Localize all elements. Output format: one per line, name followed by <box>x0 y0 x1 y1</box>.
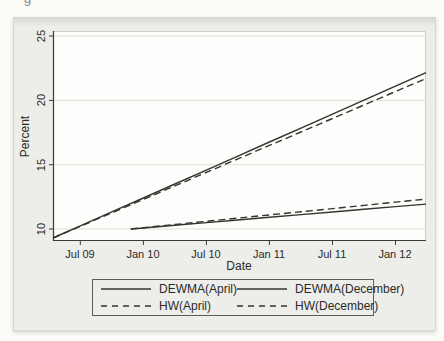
legend-label: DEWMA(April) <box>159 282 237 296</box>
legend-label: HW(December) <box>295 299 378 313</box>
legend-label: HW(April) <box>159 299 211 313</box>
chart-canvas <box>53 31 426 241</box>
figure-card: 25 20 15 10 Percent Jul 09 Jan 10 Jul 10… <box>13 17 436 331</box>
solid-line-sample-icon <box>101 287 151 291</box>
legend-entry-hw-december: HW(December) <box>237 299 404 313</box>
legend-entry-dewma-april: DEWMA(April) <box>101 282 237 296</box>
y-tick-label-15: 15 <box>35 150 47 180</box>
chart-page: g 25 20 15 10 Percent Jul 09 Jan 10 Jul … <box>0 0 444 341</box>
legend-column-april: DEWMA(April) HW(April) <box>101 282 237 313</box>
cropped-caption-fragment: g <box>24 0 31 6</box>
legend-entry-hw-april: HW(April) <box>101 299 237 313</box>
x-axis-title: Date <box>209 259 269 273</box>
solid-line-sample-icon <box>237 287 287 291</box>
legend-entry-dewma-december: DEWMA(December) <box>237 282 404 296</box>
plot-area <box>53 31 426 241</box>
chart-legend: DEWMA(April) HW(April) DEWMA(December) H… <box>92 279 374 316</box>
y-tick-label-20: 20 <box>35 85 47 115</box>
x-tick-label-jul11: Jul 11 <box>312 248 352 260</box>
legend-column-december: DEWMA(December) HW(December) <box>237 282 404 313</box>
x-tick-label-jul09: Jul 09 <box>60 248 100 260</box>
x-tick-label-jan12: Jan 12 <box>375 248 415 260</box>
y-tick-label-10: 10 <box>35 214 47 244</box>
dashed-line-sample-icon <box>237 304 287 308</box>
y-axis-title: Percent <box>19 111 32 163</box>
x-tick-label-jan10: Jan 10 <box>123 248 163 260</box>
y-tick-label-25: 25 <box>35 21 47 51</box>
dashed-line-sample-icon <box>101 304 151 308</box>
legend-label: DEWMA(December) <box>295 282 404 296</box>
